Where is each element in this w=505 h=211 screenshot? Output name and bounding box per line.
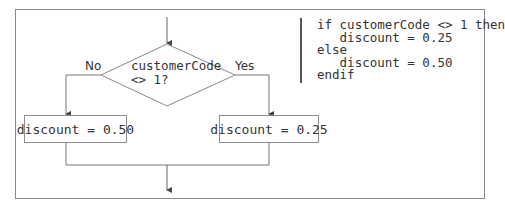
pseudocode-block: if customerCode <> 1 then discount = 0.2… [317,19,505,82]
decision-text-line1: customerCode [131,59,221,73]
yes-action-box: discount = 0.25 [219,115,319,143]
yes-label: Yes [235,59,254,73]
pseudocode-line: endif [317,69,505,82]
merge-connector [66,143,269,165]
decision-text-line2: <> 1? [131,73,169,87]
yes-branch-connector [235,75,269,114]
no-label: No [85,59,101,73]
no-action-box: discount = 0.50 [24,115,127,143]
pseudocode-bar [300,18,302,83]
no-branch-connector [66,75,101,114]
